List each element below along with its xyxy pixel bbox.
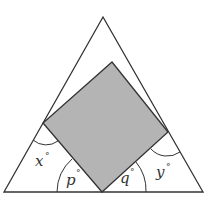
- angle-label-y: y: [155, 163, 165, 181]
- angle-arc-x: [33, 140, 58, 145]
- angle-label-p: p: [66, 171, 76, 189]
- angle-degree-p: °: [76, 168, 81, 178]
- angle-arc-y: [151, 149, 180, 156]
- angle-label-x: x: [35, 152, 44, 170]
- angle-degree-y: °: [166, 162, 171, 172]
- angle-label-q: q: [120, 169, 130, 187]
- angle-degree-x: °: [45, 151, 50, 161]
- angle-degree-q: °: [130, 167, 135, 177]
- angle-arc-q: [136, 162, 146, 192]
- triangle-square-diagram: x ° p ° q ° y °: [0, 0, 213, 204]
